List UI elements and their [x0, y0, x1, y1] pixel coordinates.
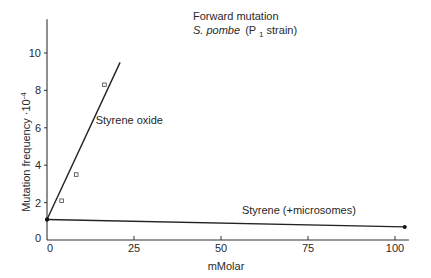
x-tick-label: 75	[302, 242, 314, 254]
y-tick-label: 0	[35, 232, 41, 244]
y-tick-label: 8	[35, 84, 41, 96]
fit-line	[47, 62, 120, 219]
fit-line	[47, 219, 405, 226]
y-tick-label: 10	[29, 47, 41, 59]
chart-subtitle: S. pombe (P 1 strain)	[193, 24, 297, 39]
x-tick-label: 50	[215, 242, 227, 254]
y-tick-label: 2	[35, 197, 41, 209]
y-axis-label: Mutation frequency ·10-4	[19, 92, 32, 212]
data-point	[45, 217, 49, 221]
annotation-styrene-oxide: Styrene oxide	[96, 114, 163, 126]
x-tick-label: 100	[386, 242, 404, 254]
annotations-layer: Styrene oxideStyrene (+microsomes)	[96, 114, 356, 216]
strain-open: (P	[245, 24, 256, 36]
chart: Forward mutation S. pombe (P 1 strain) 0…	[0, 0, 431, 278]
x-axis-label: mMolar	[208, 260, 245, 272]
data-point	[74, 173, 78, 177]
strain-subscript: 1	[259, 30, 264, 39]
x-tick-label: 25	[128, 242, 140, 254]
data-point	[403, 225, 407, 229]
chart-title: Forward mutation	[193, 10, 279, 22]
y-tick-label: 6	[35, 122, 41, 134]
x-tick-label: 0	[47, 242, 53, 254]
strain-close: strain)	[267, 24, 298, 36]
y-tick-label: 4	[35, 159, 41, 171]
series-styrene-microsomes	[45, 217, 407, 228]
data-point	[103, 83, 107, 87]
series-styrene-oxide	[45, 62, 120, 221]
y-axis-label-exp: -4	[19, 92, 28, 100]
organism-name: S. pombe	[193, 24, 240, 36]
y-axis-label-main: Mutation frequency ·10	[20, 99, 32, 212]
data-point	[60, 199, 64, 203]
annotation-styrene-microsomes: Styrene (+microsomes)	[242, 204, 356, 216]
